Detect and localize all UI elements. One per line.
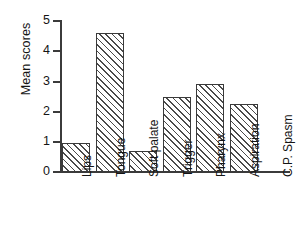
plot-area: 0 1 2 3 4 5 Lips Tongue Soft palate Trig… bbox=[0, 0, 305, 236]
y-tick-label-1: 1 bbox=[34, 135, 50, 147]
x-tick-label-aspiration: Aspiration bbox=[249, 124, 261, 177]
y-tick-mark-3 bbox=[53, 81, 61, 83]
x-tick-label-soft-palate: Soft palate bbox=[148, 120, 160, 177]
y-tick-label-4: 4 bbox=[34, 44, 50, 56]
y-tick-mark-5 bbox=[53, 20, 61, 22]
y-tick-mark-0 bbox=[53, 171, 61, 173]
x-tick-label-tongue: Tongue bbox=[115, 138, 127, 177]
y-tick-mark-1 bbox=[53, 141, 61, 143]
y-tick-mark-2 bbox=[53, 111, 61, 113]
y-tick-label-2: 2 bbox=[34, 105, 50, 117]
bar-chart: Mean scores 0 1 2 3 4 5 Lips Tongue Soft… bbox=[0, 0, 305, 236]
x-tick-label-trigger: Trigger bbox=[182, 139, 194, 177]
y-tick-label-0: 0 bbox=[34, 165, 50, 177]
y-tick-label-5: 5 bbox=[34, 14, 50, 26]
y-tick-label-3: 3 bbox=[34, 75, 50, 87]
y-tick-mark-4 bbox=[53, 50, 61, 52]
x-tick-label-pharynx: Pharynx bbox=[215, 133, 227, 177]
x-tick-label-cp-spasm: C.P. Spasm bbox=[282, 115, 294, 177]
x-tick-label-lips: Lips bbox=[81, 155, 93, 177]
